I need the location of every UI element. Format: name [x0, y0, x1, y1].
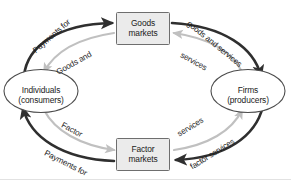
node-individuals [4, 70, 78, 113]
node-goods-markets [117, 13, 170, 45]
node-factor-markets [117, 139, 170, 171]
circular-flow-diagram: Goods markets Factor markets Individuals… [0, 0, 291, 180]
node-firms [211, 70, 285, 113]
